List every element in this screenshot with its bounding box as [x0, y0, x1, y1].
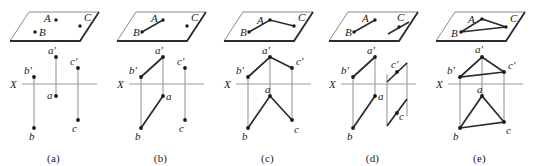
label-a: a	[378, 90, 384, 102]
panel-d-drawing: A C B X a' b' c' a b c	[319, 0, 426, 152]
lower-segment-ba	[141, 96, 163, 128]
label-a: a	[265, 83, 271, 95]
lower-path-bac	[248, 96, 292, 128]
panel-caption-c: (c)	[214, 152, 321, 164]
plane-label-C: C	[191, 11, 199, 23]
point-c-prime	[290, 66, 294, 70]
plane-point-A	[161, 18, 164, 21]
plane-label-A: A	[467, 13, 475, 25]
plane-label-C: C	[397, 11, 405, 23]
plane-label-B: B	[39, 26, 46, 38]
point-c-prime	[395, 70, 399, 74]
lower-segment-ba	[353, 96, 375, 128]
plane-label-A: A	[361, 12, 369, 24]
label-a-prime: a'	[155, 44, 164, 56]
point-a	[161, 94, 165, 98]
plane-point-A	[480, 17, 483, 20]
plane-point-C	[292, 24, 295, 27]
label-a: a	[47, 89, 53, 101]
plane-point-C	[397, 25, 400, 28]
plane-point-B	[459, 30, 462, 33]
panel-caption-d: (d)	[319, 152, 426, 164]
label-b-prime: b'	[129, 64, 138, 76]
plane-point-A	[373, 18, 376, 21]
upper-segment-ba	[353, 57, 375, 77]
label-b-prime: b'	[341, 64, 350, 76]
plane-label-B: B	[451, 27, 458, 39]
label-b-prime: b'	[24, 64, 33, 76]
label-b: b	[242, 130, 248, 142]
label-c-prime: c'	[70, 55, 78, 67]
point-b	[458, 126, 462, 130]
plane-label-B: B	[133, 26, 140, 38]
panel-b: A C B X a' b' c' a b c (b)	[107, 0, 214, 166]
label-b-prime: b'	[447, 64, 456, 76]
label-b: b	[453, 130, 459, 142]
plane-point-A	[54, 18, 57, 21]
panel-b-drawing: A C B X a' b' c' a b c	[107, 0, 214, 152]
plane-point-A	[268, 18, 271, 21]
point-b-prime	[246, 75, 250, 79]
ground-line-label: X	[328, 78, 337, 90]
panel-caption-a: (a)	[0, 152, 107, 164]
point-a	[373, 94, 377, 98]
figure-root: A C B X a' b' c' a b c (a)	[0, 0, 533, 166]
label-a-prime: a'	[367, 44, 376, 56]
plane-point-B	[352, 30, 355, 33]
label-c: c	[179, 122, 184, 134]
label-b-prime: b'	[236, 64, 245, 76]
label-c: c	[294, 123, 299, 135]
panel-e: A C B X a' b' c' a b c (e)	[426, 0, 533, 166]
point-c	[290, 118, 294, 122]
panel-caption-b: (b)	[107, 152, 214, 164]
label-c: c	[506, 124, 511, 136]
panel-a: A C B X a' b' c' a b c (a)	[0, 0, 107, 166]
panel-d: A C B X a' b' c' a b c (d)	[319, 0, 426, 166]
plane-point-B	[140, 30, 143, 33]
plane-point-B	[247, 30, 250, 33]
panel-c: A C B X a' b' c' a b c (c)	[214, 0, 321, 166]
label-a: a	[166, 90, 172, 102]
plane-point-B	[33, 30, 36, 33]
panel-e-drawing: A C B X a' b' c' a b c	[426, 0, 533, 152]
label-c: c	[72, 122, 77, 134]
point-a-prime	[480, 55, 484, 59]
label-c-prime: c'	[391, 58, 399, 70]
plane-label-C: C	[298, 11, 306, 23]
label-c-prime: c'	[177, 55, 185, 67]
ground-line-label: X	[435, 78, 444, 90]
label-a: a	[477, 83, 483, 95]
point-b-prime	[32, 75, 36, 79]
plane-point-C	[185, 24, 188, 27]
plane-label-B: B	[345, 26, 352, 38]
label-b: b	[135, 130, 141, 142]
panel-caption-e: (e)	[426, 152, 533, 164]
label-a-prime: a'	[262, 44, 271, 56]
label-c: c	[399, 110, 404, 122]
plane-parallelogram	[329, 12, 418, 41]
label-b: b	[29, 130, 35, 142]
plane-label-A: A	[43, 12, 51, 24]
point-a	[54, 94, 58, 98]
ground-line-label: X	[116, 78, 125, 90]
plane-label-A: A	[256, 14, 264, 26]
label-a-prime: a'	[48, 44, 57, 56]
panel-a-drawing: A C B X a' b' c' a b c	[0, 0, 107, 152]
plane-label-B: B	[240, 26, 247, 38]
lower-triangle-abc	[460, 96, 504, 128]
label-c-prime: c'	[296, 55, 304, 67]
point-b-prime	[351, 75, 355, 79]
point-b-prime	[139, 75, 143, 79]
plane-point-C	[504, 25, 507, 28]
plane-label-C: C	[510, 12, 518, 24]
plane-label-A: A	[150, 12, 158, 24]
panel-c-drawing: A C B X a' b' c' a b c	[214, 0, 321, 152]
label-b: b	[347, 130, 353, 142]
ground-line-label: X	[9, 78, 18, 90]
point-c-prime	[502, 70, 506, 74]
plane-path-BAC	[249, 20, 294, 32]
point-b-prime	[458, 75, 462, 79]
upper-segment-ba	[141, 57, 163, 77]
label-a-prime: a'	[475, 43, 484, 55]
label-c-prime: c'	[508, 59, 516, 71]
